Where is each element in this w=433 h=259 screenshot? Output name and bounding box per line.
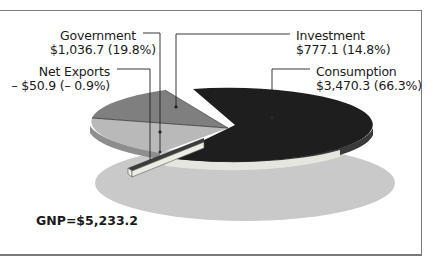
label-net-exports-value: – $50.9 (– 0.9%) xyxy=(0,79,110,93)
label-government-name: Government xyxy=(50,29,136,43)
label-net-exports-name: Net Exports xyxy=(0,65,110,79)
label-net-exports: Net Exports – $50.9 (– 0.9%) xyxy=(0,65,110,93)
gnp-total-label: GNP=$5,233.2 xyxy=(36,213,138,228)
label-government-value: $1,036.7 (19.8%) xyxy=(50,43,136,57)
label-consumption-value: $3,470.3 (66.3%) xyxy=(316,79,422,93)
label-investment-name: Investment xyxy=(296,29,390,43)
label-government: Government $1,036.7 (19.8%) xyxy=(50,29,136,57)
label-consumption-name: Consumption xyxy=(316,65,422,79)
label-investment: Investment $777.1 (14.8%) xyxy=(296,29,390,57)
label-investment-value: $777.1 (14.8%) xyxy=(296,43,390,57)
label-consumption: Consumption $3,470.3 (66.3%) xyxy=(316,65,422,93)
